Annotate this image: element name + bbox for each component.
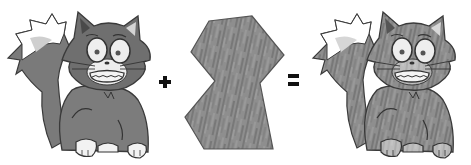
- equals-operator: [288, 74, 299, 86]
- plus-operator: [159, 76, 171, 88]
- cat-textured: [313, 12, 455, 158]
- cat-original: [8, 12, 150, 158]
- texture-patch: [185, 16, 284, 149]
- diagram-stage: Cat drawing + fur texture patch = textur…: [0, 0, 471, 165]
